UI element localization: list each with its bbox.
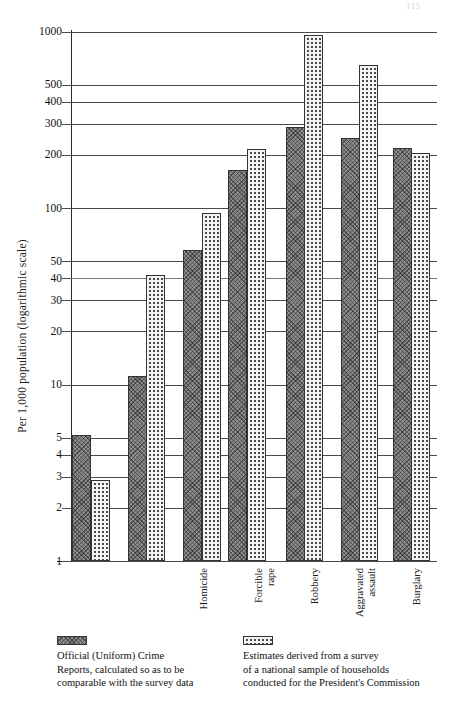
tick-stub-50	[62, 261, 71, 262]
bar-survey-5	[304, 35, 323, 562]
crime-rate-log-bar-chart: 1000500400300200100504030201054321 Per 1…	[0, 0, 461, 600]
tick-stub-5	[62, 438, 71, 439]
gridline-1000	[71, 32, 437, 33]
bar-survey-7	[411, 153, 430, 561]
gridline-500	[71, 85, 437, 86]
bar-ucr-6	[341, 138, 360, 561]
tick-stub-2	[62, 508, 71, 509]
bar-ucr-4	[228, 170, 247, 561]
gridline-300	[71, 124, 437, 125]
tick-stub-20	[62, 331, 71, 332]
y-tick-label-3: 3	[8, 471, 62, 482]
y-tick-label-1: 1	[8, 556, 62, 567]
bar-ucr-2	[128, 376, 147, 561]
y-tick-label-text: 500	[16, 79, 62, 90]
y-tick-label-500: 500	[8, 79, 62, 90]
y-tick-label-text: 400	[16, 96, 62, 107]
bar-survey-1	[91, 480, 110, 562]
legend-entry-ucr-label: Official (Uniform) Crime Reports, calcul…	[57, 649, 227, 690]
bar-ucr-7	[393, 148, 412, 561]
y-tick-label-text: 1000	[16, 26, 62, 37]
y-tick-label-text: 3	[16, 471, 62, 482]
light-dots-swatch	[243, 636, 273, 645]
y-tick-label-text: 100	[16, 203, 62, 214]
tick-stub-300	[62, 124, 71, 125]
chart-legend: Official (Uniform) Crime Reports, calcul…	[0, 636, 461, 718]
tick-stub-1000	[62, 32, 71, 33]
y-tick-label-400: 400	[8, 96, 62, 107]
y-axis-title: Per 1,000 population (logarithmic scale)	[16, 226, 28, 446]
bar-ucr-5	[286, 127, 305, 562]
tick-stub-3	[62, 477, 71, 478]
tick-stub-500	[62, 85, 71, 86]
tick-stub-400	[62, 102, 71, 103]
tick-stub-1	[62, 561, 71, 562]
tick-stub-4	[62, 455, 71, 456]
y-tick-label-text: 2	[16, 502, 62, 513]
y-tick-label-2: 2	[8, 502, 62, 513]
tick-stub-10	[62, 385, 71, 386]
y-tick-label-text: 4	[16, 449, 62, 460]
tick-stub-40	[62, 278, 71, 279]
tick-stub-30	[62, 300, 71, 301]
dark-hatch-swatch	[57, 636, 87, 645]
y-tick-label-300: 300	[8, 118, 62, 129]
y-tick-label-text: 200	[16, 149, 62, 160]
bar-survey-6	[359, 65, 378, 561]
bar-survey-3	[202, 213, 221, 561]
tick-stub-200	[62, 155, 71, 156]
y-tick-label-text: 300	[16, 118, 62, 129]
y-tick-label-100: 100	[8, 203, 62, 214]
bar-ucr-3	[183, 250, 202, 561]
y-tick-label-4: 4	[8, 449, 62, 460]
bar-survey-4	[247, 149, 266, 562]
legend-entry-survey: Estimates derived from a survey of a nat…	[243, 636, 458, 690]
tick-stub-100	[62, 208, 71, 209]
legend-entry-survey-label: Estimates derived from a survey of a nat…	[243, 649, 458, 690]
bar-survey-2	[146, 275, 165, 562]
bar-ucr-1	[72, 435, 91, 561]
y-tick-label-200: 200	[8, 149, 62, 160]
legend-entry-ucr: Official (Uniform) Crime Reports, calcul…	[57, 636, 227, 690]
gridline-400	[71, 102, 437, 103]
y-tick-label-text: 1	[16, 556, 62, 567]
y-tick-label-1000: 1000	[8, 26, 62, 37]
